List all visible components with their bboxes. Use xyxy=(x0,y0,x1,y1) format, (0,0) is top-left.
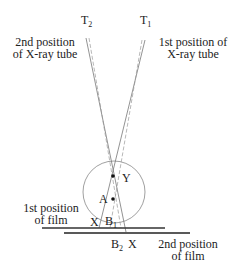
point-y xyxy=(111,174,115,178)
label-x-left: X xyxy=(90,216,99,228)
label-film-2nd-position: 2nd position of film xyxy=(150,238,226,262)
label-tube-2nd-position: 2nd position of X-ray tube xyxy=(6,36,84,60)
label-point-a: A xyxy=(99,193,108,205)
label-film-1st-position: 1st position of film xyxy=(14,202,88,226)
label-x-right: X xyxy=(128,238,137,250)
label-tube-1st-position: 1st position of X-ray tube xyxy=(150,36,236,60)
label-t2: T2 xyxy=(81,14,92,26)
ray-t1-dashed xyxy=(110,40,142,228)
object-circle xyxy=(83,161,145,223)
label-point-y: Y xyxy=(122,172,131,184)
label-b2: B2 xyxy=(111,238,123,250)
label-b1: B1 xyxy=(105,215,117,227)
label-t1: T1 xyxy=(140,14,151,26)
point-a xyxy=(111,197,115,201)
